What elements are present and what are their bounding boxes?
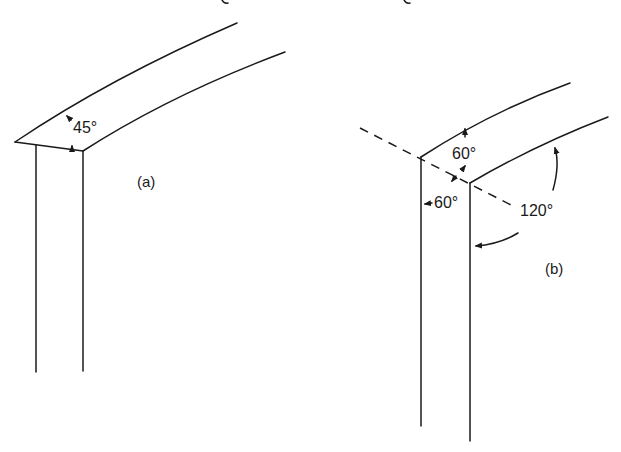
- figure-b: [360, 83, 608, 441]
- angle-label-60-top: 60°: [452, 146, 476, 162]
- beam-junction-diagram: [0, 0, 621, 452]
- angle-label-45: 45°: [73, 120, 97, 136]
- outer-curve-a: [15, 23, 237, 142]
- inner-curve-b: [470, 117, 608, 183]
- figure-a: [15, 23, 285, 372]
- angle-arrow-60-left: [425, 203, 432, 204]
- angle-arrow-120-down: [476, 233, 518, 246]
- figure-label-a: (a): [137, 174, 155, 189]
- cropped-text-fragment: [222, 0, 228, 3]
- angle-arrow-120-up: [553, 148, 557, 190]
- angle-arrow-60-mid: [462, 166, 465, 170]
- angle-label-60-left: 60°: [434, 195, 458, 211]
- outer-curve-b: [421, 83, 570, 157]
- cropped-text-fragment: [404, 0, 410, 3]
- figure-label-b: (b): [545, 261, 563, 276]
- angle-arrow-60-mid-2: [452, 176, 456, 181]
- top-edge-a: [15, 142, 83, 151]
- angle-label-120: 120°: [520, 203, 553, 219]
- inner-curve-a: [83, 52, 285, 151]
- angle-arrow-a-top: [67, 116, 71, 120]
